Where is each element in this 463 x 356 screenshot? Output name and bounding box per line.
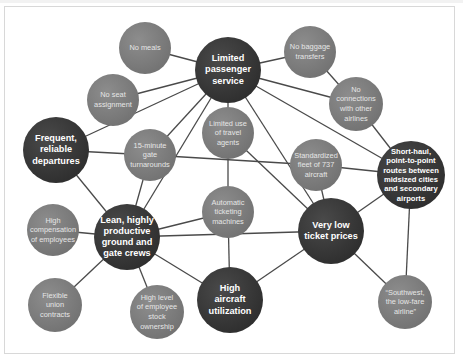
node-label: Very low ticket prices (302, 220, 360, 242)
node-flexible-union-contracts: Flexible union contracts (28, 278, 82, 332)
node-label: High level of employee stock ownership (135, 293, 179, 331)
node-label: No baggage transfers (288, 42, 332, 61)
node-label: No connections with other airlines (334, 85, 377, 123)
node-label: Frequent, reliable departures (30, 133, 82, 167)
node-no-seat-assignment: No seat assignment (87, 74, 139, 126)
node-limited-passenger-service: Limited passenger service (195, 37, 261, 103)
node-label: No meals (127, 43, 162, 53)
node-high-compensation: High compensation of employees (27, 204, 79, 256)
node-short-haul-routes: Short-haul, point-to-point routes betwee… (377, 141, 445, 209)
node-southwest-low-fare: “Southwest, the low-fare airline” (378, 275, 432, 329)
node-label: Flexible union contracts (38, 291, 72, 320)
node-limited-travel-agents: Limited use of travel agents (202, 107, 254, 159)
node-no-connections: No connections with other airlines (329, 77, 383, 131)
node-very-low-ticket-prices: Very low ticket prices (298, 198, 364, 264)
node-label: 15-minute gate turnarounds (128, 141, 171, 170)
node-no-meals: No meals (119, 22, 171, 74)
node-high-aircraft-utilization: High aircraft utilization (197, 267, 263, 333)
node-label: Lean, highly productive ground and gate … (98, 215, 156, 260)
node-label: High compensation of employees (28, 216, 78, 245)
node-lean-crews: Lean, highly productive ground and gate … (94, 204, 160, 270)
node-employee-stock-ownership: High level of employee stock ownership (130, 285, 184, 339)
node-standardized-fleet: Standardized fleet of 737 aircraft (290, 139, 342, 191)
node-label: Automatic ticketing machines (210, 198, 247, 227)
node-label: Short-haul, point-to-point routes betwee… (381, 147, 441, 203)
node-frequent-reliable-departures: Frequent, reliable departures (23, 117, 89, 183)
node-label: Limited use of travel agents (207, 119, 249, 148)
node-label: Standardized fleet of 737 aircraft (292, 151, 340, 180)
node-label: Limited passenger service (203, 53, 253, 87)
node-label: No seat assignment (92, 90, 134, 109)
node-label: High aircraft utilization (207, 283, 254, 317)
node-label: “Southwest, the low-fare airline” (383, 288, 426, 317)
node-automatic-ticketing: Automatic ticketing machines (202, 186, 254, 238)
node-no-baggage-transfers: No baggage transfers (284, 26, 336, 78)
node-gate-turnarounds: 15-minute gate turnarounds (124, 129, 176, 181)
